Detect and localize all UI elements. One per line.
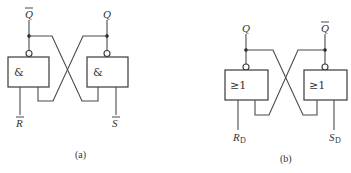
- inversion-bubble: [243, 64, 249, 70]
- sr-latch-diagrams: & & Q Q R S (a): [0, 0, 351, 173]
- diagram-a: & & Q Q R S (a): [8, 8, 128, 161]
- caption-a: (a): [75, 149, 86, 161]
- gate-symbol: &: [93, 66, 103, 79]
- label-q-b: Q: [242, 22, 250, 34]
- label-rbar: R: [15, 117, 24, 129]
- label-qbar-a: Q: [25, 8, 33, 20]
- label-sd: S D: [329, 131, 341, 145]
- inversion-bubble: [322, 64, 328, 70]
- nor-gate-left: ≥1: [225, 34, 268, 130]
- diagram-b: ≥1 ≥1 Q Q R D S D (b): [225, 22, 347, 165]
- svg-text:D: D: [335, 136, 341, 145]
- inversion-bubble: [104, 51, 110, 57]
- svg-text:S: S: [112, 117, 118, 129]
- label-qbar-b: Q: [321, 22, 329, 34]
- gate-symbol: &: [14, 66, 24, 79]
- label-sbar: S: [112, 117, 120, 129]
- caption-b: (b): [280, 153, 292, 165]
- svg-text:D: D: [240, 136, 246, 145]
- svg-text:Q: Q: [25, 8, 33, 20]
- inversion-bubble: [26, 51, 32, 57]
- svg-text:Q: Q: [321, 22, 329, 34]
- label-q-a: Q: [103, 8, 111, 20]
- svg-text:Q: Q: [242, 22, 250, 34]
- svg-text:R: R: [232, 131, 240, 143]
- svg-text:R: R: [15, 117, 23, 129]
- svg-text:Q: Q: [103, 8, 111, 20]
- gate-symbol: ≥1: [230, 79, 246, 92]
- gate-symbol: ≥1: [309, 79, 325, 92]
- label-rd: R D: [232, 131, 246, 145]
- nor-gate-right: ≥1: [304, 34, 347, 130]
